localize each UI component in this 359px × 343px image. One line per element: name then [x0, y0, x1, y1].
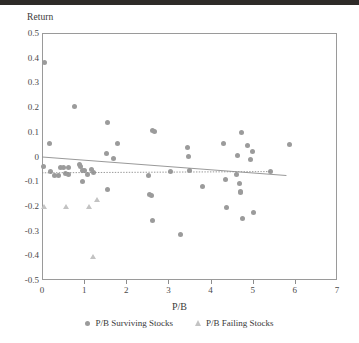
legend-entry: P/B Failing Stocks [195, 318, 274, 328]
data-point-surviving [178, 232, 183, 237]
x-tick-label: 2 [124, 285, 129, 295]
y-tick-label: 0.1 [28, 127, 39, 137]
data-point-surviving [66, 165, 71, 170]
data-point-surviving [149, 193, 154, 198]
legend-circle-icon [85, 321, 90, 326]
legend-triangle-icon [195, 320, 201, 326]
y-tick-label: -0.3 [25, 226, 39, 236]
data-point-surviving [186, 154, 191, 159]
data-point-surviving [287, 142, 292, 147]
x-axis-title: P/B [0, 301, 359, 312]
data-point-surviving [224, 205, 229, 210]
data-point-surviving [234, 172, 239, 177]
data-point-failing [41, 204, 47, 209]
data-point-surviving [91, 170, 96, 175]
data-point-surviving [85, 172, 90, 177]
data-point-surviving [41, 164, 46, 169]
data-point-surviving [168, 169, 173, 174]
y-tick-label: 0.5 [28, 28, 39, 38]
y-axis-tick-labels: 0.50.40.30.20.10-0.1-0.2-0.3-0.4-0.5 [0, 0, 39, 343]
data-point-surviving [187, 168, 192, 173]
legend-label: P/B Surviving Stocks [95, 318, 173, 328]
y-tick-label: -0.4 [25, 250, 39, 260]
data-point-surviving [152, 129, 157, 134]
y-tick-label: -0.1 [25, 176, 39, 186]
x-tick-mark [168, 280, 169, 284]
data-point-surviving [223, 177, 228, 182]
x-tick-label: 5 [250, 285, 255, 295]
x-tick-mark [295, 280, 296, 284]
data-point-surviving [56, 173, 61, 178]
x-tick-mark [126, 280, 127, 284]
data-point-surviving [66, 172, 71, 177]
legend-entry: P/B Surviving Stocks [85, 318, 173, 328]
data-point-surviving [105, 120, 110, 125]
x-tick-label: 6 [293, 285, 298, 295]
y-tick-label: 0 [35, 152, 40, 162]
y-tick-label: -0.2 [25, 201, 39, 211]
legend-label: P/B Failing Stocks [206, 318, 274, 328]
data-point-surviving [221, 141, 226, 146]
x-tick-label: 4 [208, 285, 213, 295]
x-tick-label: 3 [166, 285, 171, 295]
y-tick-label: 0.4 [28, 53, 39, 63]
x-tick-label: 1 [82, 285, 87, 295]
x-tick-mark [84, 280, 85, 284]
chart-legend: P/B Surviving StocksP/B Failing Stocks [0, 318, 359, 328]
data-point-failing [90, 254, 96, 259]
data-point-surviving [185, 145, 190, 150]
x-tick-mark [253, 280, 254, 284]
data-point-surviving [237, 181, 242, 186]
data-point-surviving [42, 60, 47, 65]
y-tick-label: 0.3 [28, 77, 39, 87]
x-tick-label: 7 [335, 285, 340, 295]
data-point-surviving [104, 151, 109, 156]
data-point-surviving [115, 141, 120, 146]
x-tick-label: 0 [40, 285, 45, 295]
y-tick-label: 0.2 [28, 102, 39, 112]
data-point-surviving [146, 173, 151, 178]
data-point-failing [94, 197, 100, 202]
data-point-failing [86, 204, 92, 209]
scatter-chart: Return 0.50.40.30.20.10-0.1-0.2-0.3-0.4-… [0, 0, 359, 343]
x-tick-mark [211, 280, 212, 284]
data-point-failing [63, 204, 69, 209]
y-tick-label: -0.5 [25, 275, 39, 285]
